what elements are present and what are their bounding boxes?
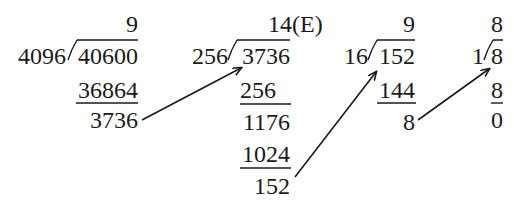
product-2b: 1024 <box>230 142 290 166</box>
remainder-1: 3736 <box>70 108 138 132</box>
quotient-3: 9 <box>390 12 415 36</box>
arrow-3-to-4 <box>418 69 489 120</box>
quotient-2: 14(E) <box>268 12 323 36</box>
remainder-4: 0 <box>480 108 503 132</box>
divisor-3: 16 <box>330 44 368 68</box>
dividend-4: 8 <box>480 44 503 68</box>
arrow-2-to-3 <box>295 72 376 177</box>
quotient-4: 8 <box>480 12 503 36</box>
quotient-1: 9 <box>100 12 138 36</box>
remainder-2: 152 <box>230 174 290 198</box>
partial-remainder-2: 1176 <box>230 110 290 134</box>
product-2a: 256 <box>240 78 276 102</box>
product-4: 8 <box>480 78 503 102</box>
remainder-3: 8 <box>370 110 415 134</box>
product-1: 36864 <box>70 78 138 102</box>
divisor-2: 256 <box>180 44 228 68</box>
arrow-1-to-2 <box>142 68 241 120</box>
dividend-1: 40600 <box>70 44 138 68</box>
dividend-2: 3736 <box>230 44 290 68</box>
divisor-1: 4096 <box>10 44 66 68</box>
dividend-3: 152 <box>370 44 415 68</box>
product-3: 144 <box>370 78 415 102</box>
